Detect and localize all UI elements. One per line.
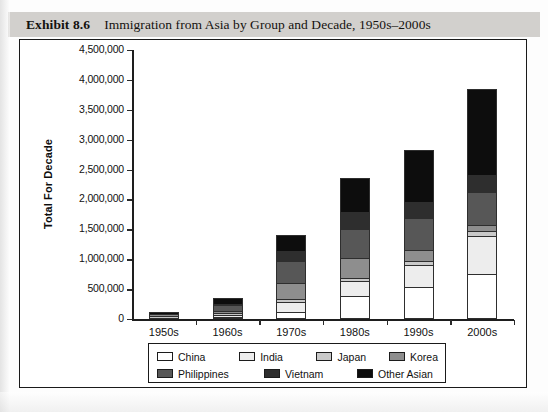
bar-segment-vietnam[interactable]	[404, 202, 434, 218]
y-tick-label: 4,500,000	[50, 43, 124, 55]
bar-1950s[interactable]	[149, 312, 179, 319]
legend-swatch-icon	[157, 369, 173, 378]
source-note	[10, 402, 310, 412]
bar-1970s[interactable]	[276, 235, 306, 319]
bar-segment-china[interactable]	[467, 274, 497, 319]
legend-item-vietnam[interactable]: Vietnam	[264, 368, 350, 380]
legend-swatch-icon	[239, 352, 255, 361]
legend-item-korea[interactable]: Korea	[389, 351, 438, 363]
legend-item-other-asian[interactable]: Other Asian	[357, 368, 433, 380]
y-tick-mark	[127, 199, 132, 200]
bar-segment-vietnam[interactable]	[276, 251, 306, 261]
bar-segment-india[interactable]	[276, 302, 306, 312]
legend-row: ChinaIndiaJapanKorea	[157, 348, 445, 365]
bar-1960s[interactable]	[213, 298, 243, 319]
bar-1980s[interactable]	[340, 178, 370, 319]
bar-segment-china[interactable]	[276, 312, 306, 319]
bar-segment-india[interactable]	[213, 315, 243, 317]
page-root: Exhibit 8.6 Immigration from Asia by Gro…	[0, 0, 548, 412]
bar-segment-korea[interactable]	[467, 225, 497, 230]
y-tick-label: 2,500,000	[50, 163, 124, 175]
legend-label: Japan	[337, 351, 366, 363]
legend-swatch-icon	[389, 352, 405, 361]
bar-segment-vietnam[interactable]	[340, 212, 370, 229]
y-axis-line	[132, 50, 134, 319]
bar-segment-japan[interactable]	[340, 278, 370, 281]
bar-segment-other-asian[interactable]	[149, 312, 179, 314]
bar-segment-korea[interactable]	[213, 311, 243, 313]
y-tick-mark	[127, 229, 132, 230]
chart-panel: Total For Decade 4,500,0004,000,0003,500…	[19, 39, 527, 388]
y-tick-mark	[127, 110, 132, 111]
scan-vignette-left	[0, 0, 10, 412]
exhibit-number: Exhibit 8.6	[26, 17, 90, 33]
y-tick-mark	[127, 140, 132, 141]
legend-label: India	[260, 351, 283, 363]
x-category-label: 1970s	[260, 326, 322, 338]
x-category-label: 2000s	[451, 326, 513, 338]
y-tick-label: 500,000	[50, 282, 124, 294]
bar-segment-philippines[interactable]	[467, 192, 497, 225]
bar-segment-japan[interactable]	[276, 299, 306, 302]
exhibit-title: Immigration from Asia by Group and Decad…	[104, 17, 431, 33]
legend-item-china[interactable]: China	[157, 351, 232, 363]
x-tick-mark	[323, 320, 324, 325]
bar-segment-india[interactable]	[467, 236, 497, 274]
bar-segment-vietnam[interactable]	[467, 175, 497, 192]
bar-segment-korea[interactable]	[404, 250, 434, 261]
y-tick-mark	[127, 289, 132, 290]
bar-segment-other-asian[interactable]	[213, 298, 243, 304]
y-tick-mark	[127, 80, 132, 81]
bar-segment-other-asian[interactable]	[404, 150, 434, 201]
legend-item-japan[interactable]: Japan	[316, 351, 382, 363]
bar-segment-japan[interactable]	[213, 313, 243, 315]
y-tick-label: 3,500,000	[50, 103, 124, 115]
bar-segment-philippines[interactable]	[213, 305, 243, 311]
x-category-label: 1980s	[324, 326, 386, 338]
exhibit-header: Exhibit 8.6 Immigration from Asia by Gro…	[8, 12, 540, 37]
bar-1990s[interactable]	[404, 150, 434, 319]
y-tick-label: 1,000,000	[50, 252, 124, 264]
legend-swatch-icon	[357, 369, 373, 378]
legend-label: Other Asian	[378, 368, 433, 380]
legend-row: PhilippinesVietnamOther Asian	[157, 365, 445, 382]
bar-2000s[interactable]	[467, 89, 497, 319]
bar-segment-japan[interactable]	[404, 261, 434, 265]
y-tick-label: 1,500,000	[50, 222, 124, 234]
y-tick-mark	[127, 170, 132, 171]
legend-label: Philippines	[178, 368, 229, 380]
x-category-label: 1950s	[133, 326, 195, 338]
chart-legend: ChinaIndiaJapanKoreaPhilippinesVietnamOt…	[148, 343, 446, 383]
legend-item-india[interactable]: India	[239, 351, 309, 363]
legend-swatch-icon	[316, 352, 332, 361]
bar-segment-other-asian[interactable]	[340, 178, 370, 212]
bar-segment-philippines[interactable]	[340, 229, 370, 259]
x-tick-mark	[259, 320, 260, 325]
bar-segment-philippines[interactable]	[276, 261, 306, 283]
y-tick-label: 2,000,000	[50, 192, 124, 204]
bar-segment-korea[interactable]	[276, 283, 306, 299]
bar-segment-china[interactable]	[404, 287, 434, 319]
legend-swatch-icon	[157, 352, 173, 361]
x-tick-mark	[387, 320, 388, 325]
y-tick-mark	[127, 319, 132, 320]
x-tick-mark	[514, 320, 515, 325]
bar-segment-india[interactable]	[404, 265, 434, 287]
bar-segment-philippines[interactable]	[149, 314, 179, 315]
bar-segment-japan[interactable]	[467, 231, 497, 236]
bar-segment-other-asian[interactable]	[467, 89, 497, 174]
y-tick-mark	[127, 50, 132, 51]
bar-segment-philippines[interactable]	[404, 218, 434, 250]
bar-segment-china[interactable]	[213, 317, 243, 319]
y-tick-label: 3,000,000	[50, 133, 124, 145]
x-category-label: 1960s	[197, 326, 259, 338]
bar-segment-other-asian[interactable]	[276, 235, 306, 250]
bar-segment-korea[interactable]	[340, 258, 370, 278]
bar-segment-china[interactable]	[340, 296, 370, 319]
legend-swatch-icon	[264, 369, 280, 378]
legend-label: China	[178, 351, 205, 363]
legend-item-philippines[interactable]: Philippines	[157, 368, 257, 380]
bar-segment-japan[interactable]	[149, 316, 179, 319]
x-tick-mark	[450, 320, 451, 325]
bar-segment-india[interactable]	[340, 281, 370, 296]
